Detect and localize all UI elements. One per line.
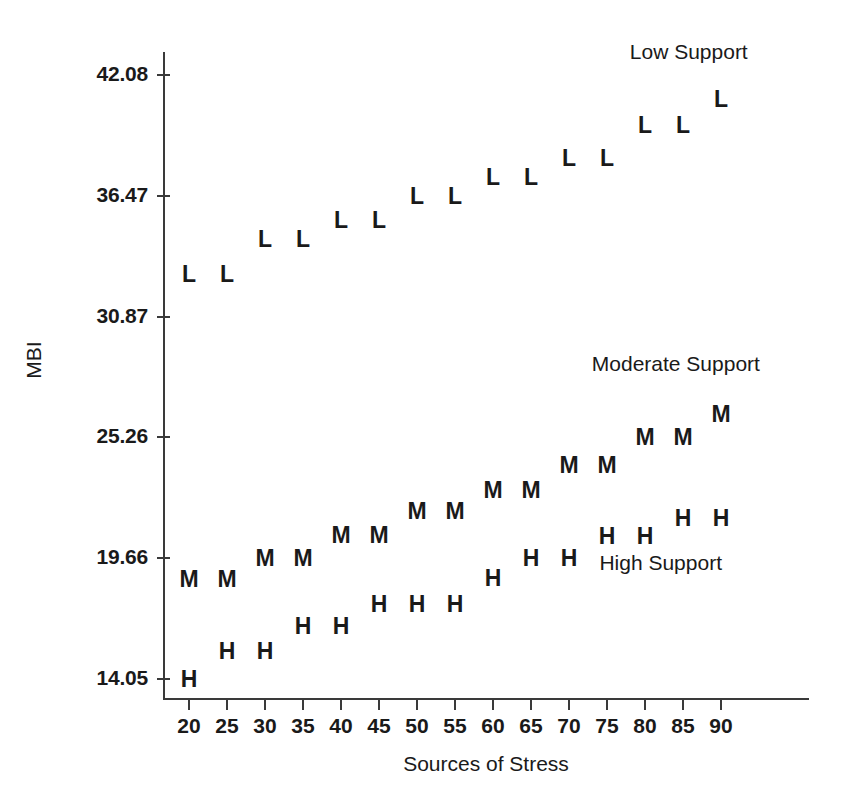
y-axis-title: MBI [22, 310, 46, 410]
data-point-m: M [290, 544, 316, 572]
plot-area: 14.0519.6625.2630.8736.4742.08 202530354… [0, 0, 847, 807]
series-label-m: Moderate Support [592, 352, 760, 376]
data-point-h: H [632, 522, 658, 550]
data-point-l: L [632, 111, 658, 139]
data-point-l: L [442, 182, 468, 210]
y-tick-label-text: 25.26 [56, 424, 148, 448]
y-tick-label: 42.08 [48, 62, 148, 86]
y-tick-label-text: 42.08 [56, 62, 148, 86]
data-point-h: H [290, 612, 316, 640]
x-tick-label: 90 [698, 714, 744, 738]
data-point-m: M [442, 497, 468, 525]
y-tick-label-text: 36.47 [56, 183, 148, 207]
data-point-h: H [480, 564, 506, 592]
x-tick-mark [226, 698, 228, 710]
data-point-m: M [708, 400, 734, 428]
data-point-h: H [328, 612, 354, 640]
y-tick-label: 30.87 [48, 304, 148, 328]
data-point-l: L [480, 163, 506, 191]
data-point-h: H [176, 665, 202, 693]
data-point-m: M [632, 423, 658, 451]
data-point-m: M [480, 476, 506, 504]
y-tick-label-text: 30.87 [56, 304, 148, 328]
x-tick-mark [530, 698, 532, 710]
y-tick-mark [157, 316, 170, 318]
data-point-l: L [366, 206, 392, 234]
data-point-h: H [556, 544, 582, 572]
data-point-l: L [252, 225, 278, 253]
data-point-m: M [328, 521, 354, 549]
data-point-l: L [670, 111, 696, 139]
y-tick-mark [157, 195, 170, 197]
chart-figure: 14.0519.6625.2630.8736.4742.08 202530354… [0, 0, 847, 807]
data-point-l: L [404, 182, 430, 210]
data-point-h: H [442, 590, 468, 618]
data-point-m: M [366, 521, 392, 549]
y-tick-mark [157, 436, 170, 438]
data-point-m: M [518, 476, 544, 504]
x-tick-mark [606, 698, 608, 710]
y-tick-mark [157, 678, 170, 680]
data-point-m: M [252, 544, 278, 572]
y-tick-mark [157, 557, 170, 559]
data-point-m: M [176, 565, 202, 593]
x-tick-mark [302, 698, 304, 710]
y-tick-label-text: 14.05 [56, 666, 148, 690]
data-point-m: M [670, 423, 696, 451]
data-point-m: M [556, 451, 582, 479]
data-point-l: L [594, 144, 620, 172]
x-tick-mark [416, 698, 418, 710]
data-point-h: H [670, 504, 696, 532]
data-point-l: L [214, 260, 240, 288]
data-point-m: M [404, 497, 430, 525]
series-label-h: High Support [599, 551, 722, 575]
data-point-m: M [214, 565, 240, 593]
data-point-h: H [252, 637, 278, 665]
x-tick-mark [568, 698, 570, 710]
x-tick-mark [264, 698, 266, 710]
data-point-h: H [366, 590, 392, 618]
data-point-l: L [176, 260, 202, 288]
data-point-h: H [214, 637, 240, 665]
series-label-l: Low Support [630, 40, 748, 64]
y-tick-label: 14.05 [48, 666, 148, 690]
x-axis-line [163, 698, 809, 700]
x-tick-mark [378, 698, 380, 710]
y-tick-label-text: 19.66 [56, 545, 148, 569]
data-point-h: H [594, 522, 620, 550]
y-tick-label: 19.66 [48, 545, 148, 569]
data-point-l: L [518, 163, 544, 191]
x-tick-mark [492, 698, 494, 710]
data-point-m: M [594, 451, 620, 479]
x-tick-mark [340, 698, 342, 710]
data-point-l: L [556, 144, 582, 172]
x-tick-mark [682, 698, 684, 710]
data-point-l: L [328, 206, 354, 234]
x-tick-mark [188, 698, 190, 710]
data-point-h: H [708, 504, 734, 532]
y-tick-label: 25.26 [48, 424, 148, 448]
x-tick-mark [720, 698, 722, 710]
data-point-h: H [404, 590, 430, 618]
x-tick-mark [644, 698, 646, 710]
y-axis-line [163, 52, 165, 700]
data-point-l: L [708, 85, 734, 113]
x-axis-title: Sources of Stress [163, 752, 809, 776]
data-point-h: H [518, 544, 544, 572]
data-point-l: L [290, 225, 316, 253]
x-tick-mark [454, 698, 456, 710]
y-tick-mark [157, 74, 170, 76]
y-tick-label: 36.47 [48, 183, 148, 207]
